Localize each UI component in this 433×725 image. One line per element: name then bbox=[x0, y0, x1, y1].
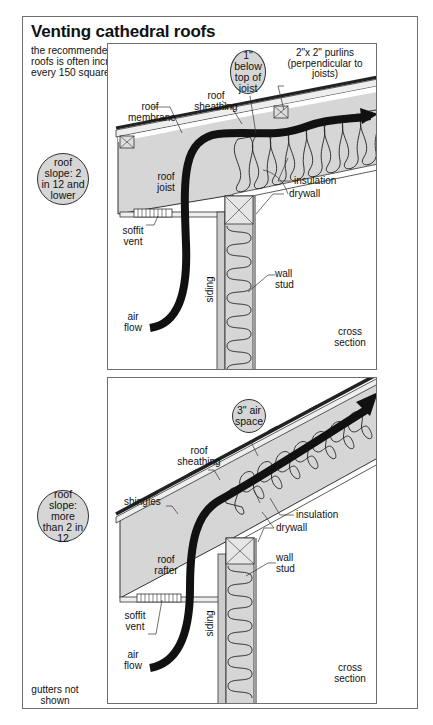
clearance-callout-text: 1" below top of joist bbox=[233, 50, 263, 94]
label-drywall: drywall bbox=[276, 523, 307, 534]
label-roof-sheathing: roof sheathing bbox=[174, 446, 224, 467]
label-insulation: insulation bbox=[294, 176, 336, 187]
label-shingles-outer: shingles bbox=[124, 497, 161, 508]
label-siding: siding bbox=[204, 276, 215, 302]
steep-slope-cross-section: 3" air space roof sheathing roof rafter … bbox=[107, 377, 377, 704]
roof-slope-badge-low-text: roof slope: 2 in 12 and lower bbox=[41, 157, 85, 201]
label-wall-stud: wall stud bbox=[276, 553, 300, 574]
label-drywall: drywall bbox=[289, 189, 320, 200]
roof-slope-badge-steep: roof slope: more than 2 in 12 bbox=[37, 490, 89, 542]
roof-slope-badge-low: roof slope: 2 in 12 and lower bbox=[37, 153, 89, 205]
label-cross-section: cross section bbox=[330, 327, 370, 348]
label-air-flow: air flow bbox=[118, 312, 148, 333]
roof-slope-badge-steep-text: roof slope: more than 2 in 12 bbox=[41, 489, 85, 544]
label-roof-rafter: roof rafter bbox=[146, 555, 186, 576]
air-space-callout-text: 3" air space bbox=[235, 405, 263, 427]
siding bbox=[218, 554, 226, 704]
low-slope-cross-section: 1" below top of joist roof membrane roof… bbox=[107, 43, 377, 370]
air-space-callout-bubble: 3" air space bbox=[232, 399, 266, 433]
label-soffit-vent: soffit vent bbox=[118, 226, 148, 247]
label-insulation: insulation bbox=[296, 510, 338, 521]
soffit-vent-grille bbox=[134, 209, 172, 217]
label-roof-joist: roof joist bbox=[146, 172, 186, 193]
label-roof-sheathing: roof sheathing bbox=[186, 91, 246, 112]
gutters-footnote: gutters not shown bbox=[30, 684, 80, 706]
diagram-title: Venting cathedral roofs bbox=[31, 22, 215, 42]
label-air-flow: air flow bbox=[118, 650, 148, 671]
label-soffit-vent: soffit vent bbox=[120, 611, 150, 632]
label-purlins: 2"x 2" purlins (perpendicular to joists) bbox=[282, 48, 368, 80]
label-cross-section: cross section bbox=[330, 663, 370, 684]
label-roof-membrane: roof membrane bbox=[120, 102, 180, 123]
soffit-vent-grille bbox=[137, 594, 181, 602]
clearance-callout-bubble: 1" below top of joist bbox=[230, 50, 266, 94]
label-siding: siding bbox=[204, 610, 215, 636]
label-wall-stud: wall stud bbox=[275, 269, 299, 290]
siding bbox=[217, 212, 225, 370]
